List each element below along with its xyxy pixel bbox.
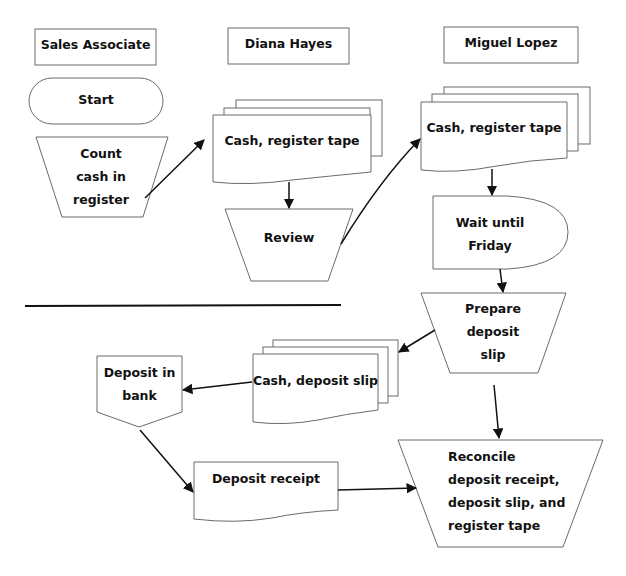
wait-label-line1: Wait until [433, 211, 547, 234]
wait-label-line2: Friday [433, 234, 547, 257]
arrow-deposit-docs-to-bank [183, 382, 252, 390]
arrow-bank-to-receipt [140, 430, 193, 492]
lane-label-sales-associate: Sales Associate [35, 33, 156, 56]
lane-label-miguel-lopez: Miguel Lopez [444, 31, 578, 54]
prepare-label-line1: Prepare [421, 297, 565, 320]
lane-label-diana-hayes: Diana Hayes [228, 32, 349, 55]
arrow-wait-to-prepare [500, 269, 503, 292]
arrow-prepare-to-reconcile [494, 385, 499, 438]
start-label: Start [29, 88, 163, 111]
count-label-line3: register [36, 188, 166, 211]
docs-diana-label: Cash, register tape [213, 129, 371, 152]
reconcile-label-line3: deposit slip, and [448, 491, 565, 514]
separator-line [25, 305, 341, 306]
prepare-label-line3: slip [421, 343, 565, 366]
prepare-label-line2: deposit [421, 320, 565, 343]
docs-deposit-label: Cash, deposit slip [253, 369, 378, 392]
docs-miguel-label: Cash, register tape [421, 116, 567, 139]
reconcile-label-line2: deposit receipt, [448, 468, 560, 491]
arrow-receipt-to-reconcile [338, 488, 416, 490]
reconcile-label-line4: register tape [448, 514, 540, 537]
bank-label-line1: Deposit in [97, 361, 182, 384]
review-label: Review [225, 226, 353, 249]
bank-label-line2: bank [97, 384, 182, 407]
receipt-label: Deposit receipt [194, 467, 338, 490]
count-label-line1: Count [36, 142, 166, 165]
count-label-line2: cash in [36, 165, 166, 188]
reconcile-label-line1: Reconcile [448, 445, 515, 468]
